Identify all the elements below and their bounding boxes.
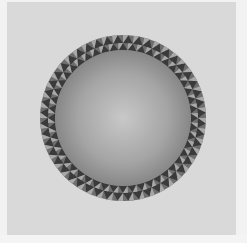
sphere	[55, 50, 191, 186]
sphere-illustration	[0, 0, 247, 243]
